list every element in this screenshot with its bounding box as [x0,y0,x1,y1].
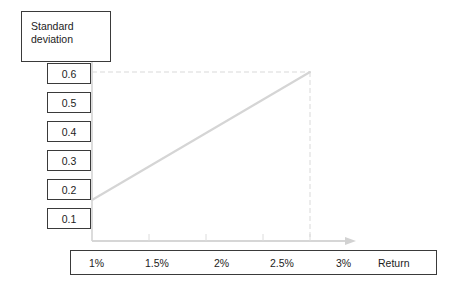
y-axis-tick-label-3: 0.3 [48,155,90,167]
diagram-canvas: Standard deviation 0.6 0.5 0.4 0.3 0.2 0… [0,0,455,286]
y-axis-tick-label-1: 0.5 [48,97,90,109]
x-axis-line [92,237,356,245]
x-axis-ticks [92,234,310,241]
y-axis-tick-box-2: 0.4 [47,121,91,142]
y-axis-tick-box-5: 0.1 [47,208,91,229]
y-axis-tick-box-3: 0.3 [47,150,91,171]
y-axis-tick-label-2: 0.4 [48,126,90,138]
y-axis-tick-box-1: 0.5 [47,92,91,113]
x-axis-arrowhead [345,237,356,245]
y-axis-tick-box-0: 0.6 [47,63,91,84]
x-axis-tick-label-2: 2% [214,257,229,269]
x-axis-tick-label-0: 1% [89,257,104,269]
y-axis-tick-label-5: 0.1 [48,213,90,225]
y-axis-title-box: Standard deviation [21,11,111,62]
x-axis-tick-label-1: 1.5% [145,257,169,269]
x-axis-title-label: Return [378,257,410,269]
y-axis-tick-label-0: 0.6 [48,68,90,80]
y-axis-title-label: Standard deviation [31,20,97,46]
y-axis-tick-box-4: 0.2 [47,179,91,200]
x-axis-tick-label-4: 3% [336,257,351,269]
y-axis-tick-label-4: 0.2 [48,184,90,196]
x-axis-label-bar: 1% 1.5% 2% 2.5% 3% Return [70,250,437,275]
data-line-risk-return [92,72,310,200]
x-axis-tick-label-3: 2.5% [270,257,294,269]
